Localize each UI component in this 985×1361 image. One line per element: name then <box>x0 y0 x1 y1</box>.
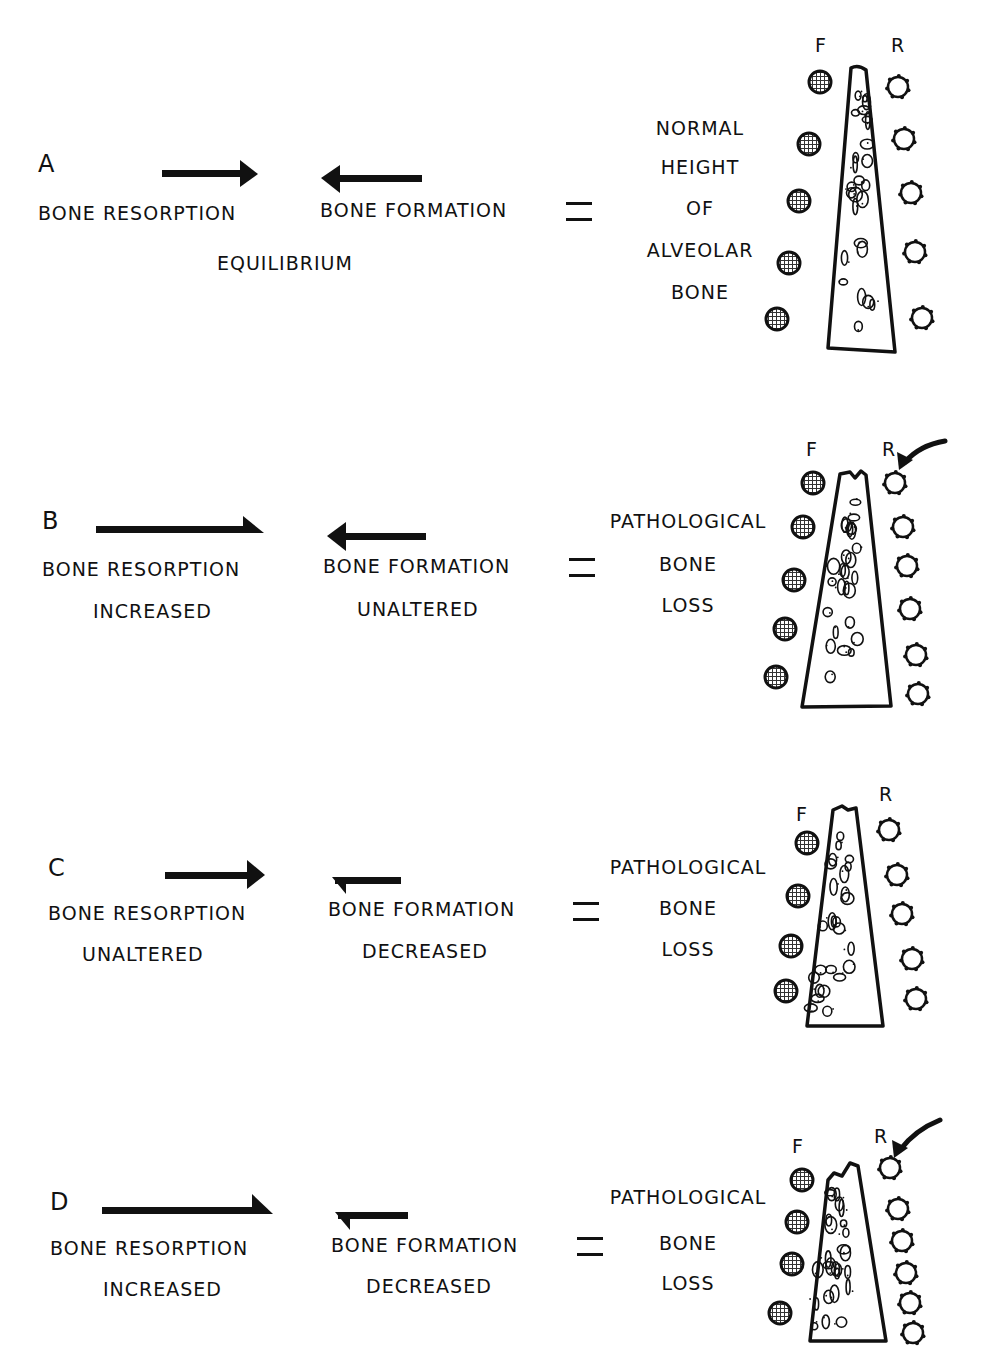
osteoclast-cell-icon <box>884 862 909 887</box>
osteoclast-cell-icon <box>885 74 910 99</box>
formation-arrow <box>321 165 422 193</box>
osteoclast-cell-icon <box>890 514 915 539</box>
alveolar-bone-diagram <box>769 1120 940 1345</box>
osteoblast-cell-icon <box>778 252 800 274</box>
osteoblast-cell-icon <box>791 1169 813 1191</box>
osteoclast-cell-icon <box>903 642 928 667</box>
highlight-arrow-icon <box>892 1120 940 1158</box>
osteoblast-cell-icon <box>788 190 810 212</box>
osteoblast-cell-icon <box>786 1211 808 1233</box>
alveolar-bone-diagram <box>766 66 935 352</box>
osteoblast-cell-icon <box>780 935 802 957</box>
osteoclast-cell-icon <box>897 1290 922 1315</box>
osteoclast-cell-icon <box>889 901 914 926</box>
osteoblast-cell-icon <box>783 569 805 591</box>
osteoblast-cell-icon <box>775 980 797 1002</box>
osteoclast-cell-icon <box>894 553 919 578</box>
resorption-arrow <box>165 860 265 889</box>
osteoblast-cell-icon <box>796 832 818 854</box>
osteoclast-cell-icon <box>882 470 907 495</box>
osteoclast-cell-icon <box>889 1228 914 1253</box>
osteoblast-cell-icon <box>802 472 824 494</box>
formation-arrow-decreased <box>332 877 401 894</box>
resorption-arrow-increased <box>96 516 264 533</box>
osteoblast-cell-icon <box>765 666 787 688</box>
osteoclast-cell-icon <box>876 817 901 842</box>
formation-arrow <box>327 522 426 551</box>
osteoclast-cell-icon <box>903 986 928 1011</box>
osteoblast-cell-icon <box>774 618 796 640</box>
osteoblast-cell-icon <box>769 1302 791 1324</box>
diagram-artwork <box>0 0 985 1361</box>
highlight-arrow-icon <box>897 441 945 470</box>
osteoclast-cell-icon <box>909 305 934 330</box>
formation-arrow-decreased <box>335 1212 408 1230</box>
osteoblast-cell-icon <box>809 71 831 93</box>
resorption-arrow <box>162 160 258 187</box>
osteoblast-cell-icon <box>787 885 809 907</box>
osteoclast-cell-icon <box>898 180 923 205</box>
alveolar-bone-diagram <box>775 806 929 1026</box>
osteoclast-cell-icon <box>885 1196 910 1221</box>
osteoblast-cell-icon <box>766 308 788 330</box>
osteoclast-cell-icon <box>899 946 924 971</box>
alveolar-bone-diagram <box>765 441 945 707</box>
osteoblast-cell-icon <box>792 516 814 538</box>
resorption-arrow-increased <box>102 1194 273 1214</box>
osteoclast-cell-icon <box>893 1260 918 1285</box>
alveolar-bone-crest <box>828 66 895 352</box>
osteoclast-cell-icon <box>897 596 922 621</box>
osteoclast-cell-icon <box>905 681 930 706</box>
osteoblast-cell-icon <box>798 133 820 155</box>
alveolar-bone-crest <box>802 471 891 707</box>
osteoblast-cell-icon <box>781 1253 803 1275</box>
osteoclast-cell-icon <box>900 1320 925 1345</box>
osteoclast-cell-icon <box>877 1155 902 1180</box>
osteoclast-cell-icon <box>902 239 927 264</box>
osteoclast-cell-icon <box>891 126 916 151</box>
